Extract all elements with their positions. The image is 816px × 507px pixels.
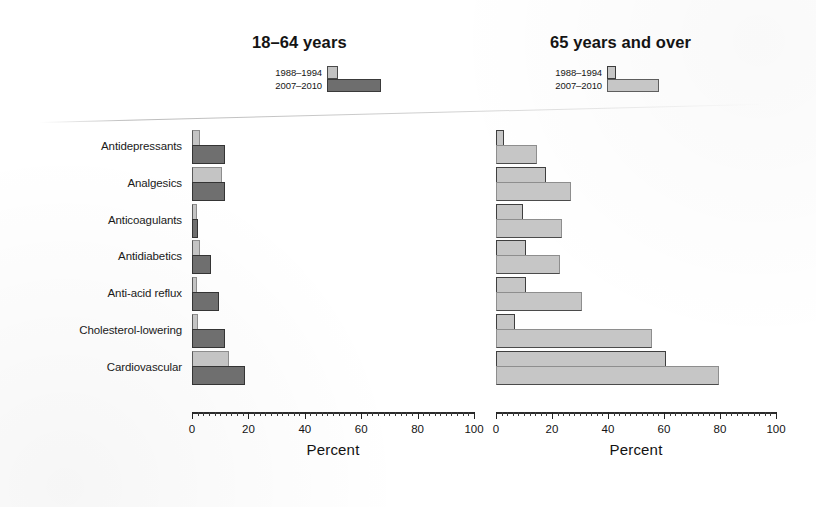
axis-tick-minor bbox=[653, 412, 654, 416]
bar-old-period bbox=[496, 240, 526, 256]
bar-old-period bbox=[496, 167, 546, 183]
axis-tick-minor bbox=[344, 412, 345, 416]
bar-group bbox=[192, 165, 474, 202]
axis-tick-minor bbox=[619, 412, 620, 416]
axis-tick-minor bbox=[440, 412, 441, 416]
axis-tick-major bbox=[192, 412, 193, 419]
axis-tick-minor bbox=[457, 412, 458, 416]
legend-item-2007-2010: 2007–2010 bbox=[258, 79, 381, 92]
axis-tick-major bbox=[248, 412, 249, 419]
bar-old-period bbox=[496, 277, 526, 293]
axis-tick-minor bbox=[647, 412, 648, 416]
bar-new-period bbox=[496, 366, 719, 385]
bar-new-period bbox=[192, 292, 219, 311]
axis-tick-minor bbox=[322, 412, 323, 416]
axis-tick-minor bbox=[602, 412, 603, 416]
axis-tick-label: 100 bbox=[464, 423, 483, 435]
axis-tick-minor bbox=[625, 412, 626, 416]
axis-tick-minor bbox=[675, 412, 676, 416]
bar-new-period bbox=[192, 182, 225, 201]
axis-tick-minor bbox=[748, 412, 749, 416]
axis-tick-minor bbox=[765, 412, 766, 416]
bar-new-period bbox=[496, 145, 537, 164]
bar-new-period bbox=[192, 219, 198, 238]
axis-tick-minor bbox=[277, 412, 278, 416]
axis-tick-major bbox=[664, 412, 665, 419]
axis-tick-minor bbox=[356, 412, 357, 416]
axis-tick-minor bbox=[265, 412, 266, 416]
legend-swatch-1988-1994-icon bbox=[607, 66, 616, 79]
chart-panel-65-over: 65 years and over 1988–1994 2007–2010 Pe… bbox=[490, 0, 816, 507]
bar-group bbox=[192, 128, 474, 165]
axis-tick-minor bbox=[686, 412, 687, 416]
axis-tick-label: 40 bbox=[602, 423, 615, 435]
axis-tick-minor bbox=[586, 412, 587, 416]
axis-tick-minor bbox=[535, 412, 536, 416]
axis-tick-minor bbox=[288, 412, 289, 416]
axis-tick-minor bbox=[367, 412, 368, 416]
axis-tick-minor bbox=[350, 412, 351, 416]
axis-tick-minor bbox=[530, 412, 531, 416]
axis-tick-minor bbox=[513, 412, 514, 416]
axis-tick-minor bbox=[226, 412, 227, 416]
axis-tick-major bbox=[496, 412, 497, 419]
axis-tick-major bbox=[361, 412, 362, 419]
bar-new-period bbox=[192, 329, 225, 348]
axis-tick-minor bbox=[446, 412, 447, 416]
bar-old-period bbox=[496, 204, 523, 220]
plot-area-18-64 bbox=[192, 128, 474, 386]
axis-tick-minor bbox=[435, 412, 436, 416]
bar-new-period bbox=[496, 182, 571, 201]
axis-tick-minor bbox=[243, 412, 244, 416]
axis-tick-minor bbox=[372, 412, 373, 416]
axis-tick-minor bbox=[698, 412, 699, 416]
axis-tick-minor bbox=[737, 412, 738, 416]
bar-old-period bbox=[496, 130, 504, 146]
legend-swatch-1988-1994-icon bbox=[327, 66, 338, 79]
axis-tick-minor bbox=[742, 412, 743, 416]
axis-tick-minor bbox=[299, 412, 300, 416]
axis-tick-minor bbox=[692, 412, 693, 416]
axis-tick-label: 0 bbox=[189, 423, 195, 435]
legend-item-1988-1994: 1988–1994 bbox=[538, 66, 659, 79]
bar-old-period bbox=[192, 167, 222, 183]
legend-18-64: 1988–1994 2007–2010 bbox=[258, 66, 381, 92]
axis-tick-minor bbox=[209, 412, 210, 416]
bar-new-period bbox=[496, 255, 560, 274]
axis-tick-minor bbox=[220, 412, 221, 416]
legend-65-over: 1988–1994 2007–2010 bbox=[538, 66, 659, 92]
bar-group bbox=[496, 275, 776, 312]
axis-tick-minor bbox=[451, 412, 452, 416]
axis-tick-minor bbox=[709, 412, 710, 416]
axis-tick-minor bbox=[310, 412, 311, 416]
axis-tick-minor bbox=[731, 412, 732, 416]
legend-label-2007-2010: 2007–2010 bbox=[258, 80, 327, 91]
axis-tick-minor bbox=[333, 412, 334, 416]
axis-tick-minor bbox=[580, 412, 581, 416]
axis-tick-minor bbox=[591, 412, 592, 416]
panel-title-65-over: 65 years and over bbox=[550, 33, 691, 52]
axis-tick-label: 0 bbox=[493, 423, 499, 435]
axis-tick-minor bbox=[518, 412, 519, 416]
axis-tick-minor bbox=[327, 412, 328, 416]
bar-group bbox=[192, 275, 474, 312]
bar-group bbox=[192, 312, 474, 349]
x-axis-18-64: Percent 020406080100 bbox=[192, 412, 474, 450]
axis-tick-label: 40 bbox=[298, 423, 311, 435]
bar-new-period bbox=[496, 329, 652, 348]
axis-tick-minor bbox=[406, 412, 407, 416]
axis-tick-minor bbox=[231, 412, 232, 416]
legend-label-1988-1994: 1988–1994 bbox=[258, 67, 327, 78]
axis-tick-minor bbox=[524, 412, 525, 416]
bar-old-period bbox=[496, 351, 666, 367]
plot-area-65-over bbox=[496, 128, 776, 386]
x-axis-title-65-over: Percent bbox=[496, 441, 776, 458]
axis-tick-minor bbox=[198, 412, 199, 416]
axis-tick-minor bbox=[681, 412, 682, 416]
bar-new-period bbox=[496, 219, 562, 238]
axis-tick-label: 80 bbox=[714, 423, 727, 435]
axis-tick-label: 20 bbox=[546, 423, 559, 435]
axis-tick-minor bbox=[502, 412, 503, 416]
axis-tick-major bbox=[552, 412, 553, 419]
axis-tick-minor bbox=[714, 412, 715, 416]
